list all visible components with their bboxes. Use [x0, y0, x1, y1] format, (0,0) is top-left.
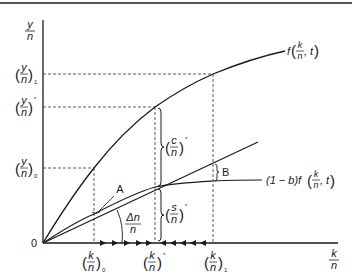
x-axis-label-num: k — [331, 247, 337, 259]
origin-label: 0 — [31, 237, 37, 249]
svg-text:n: n — [171, 213, 177, 225]
svg-text:): ) — [179, 206, 184, 223]
svg-text:n: n — [171, 146, 177, 158]
svg-text:n: n — [210, 261, 216, 273]
consumption-label: ( c n ) * — [165, 134, 188, 158]
svg-text:(: ( — [165, 206, 170, 223]
point-a-label: A — [116, 183, 124, 195]
svg-text:*: * — [185, 203, 188, 209]
svg-text:n: n — [130, 223, 136, 235]
gap-b-label: B — [222, 166, 229, 178]
svg-text:): ) — [28, 99, 33, 116]
svg-text:(: ( — [165, 139, 170, 156]
svg-text:(: ( — [291, 42, 296, 59]
savings-curve-label: (1 − b)f ( k n , t ) — [266, 169, 335, 190]
svg-text:(: ( — [15, 66, 20, 83]
saving-brace — [158, 189, 164, 241]
svg-text:): ) — [314, 42, 319, 59]
a-pointer — [98, 196, 114, 212]
svg-text:(: ( — [15, 99, 20, 116]
svg-text:Δn: Δn — [125, 211, 140, 223]
svg-text:, t: , t — [320, 174, 330, 186]
consumption-brace — [158, 108, 164, 186]
svg-text:(: ( — [307, 172, 312, 189]
svg-text:1: 1 — [34, 79, 38, 85]
svg-text:): ) — [218, 254, 223, 271]
y-tick-1: ( y n ) 1 — [15, 61, 38, 85]
svg-text:n: n — [21, 73, 27, 85]
svg-text:0: 0 — [102, 267, 106, 273]
x-tick-star: ( k n ) * — [143, 249, 166, 273]
svg-text:c: c — [171, 134, 177, 146]
solow-growth-diagram: y n 0 k n ( y n ) 1 ( y n ) * ( y n ) 0 … — [0, 0, 352, 280]
angle-arc — [117, 210, 122, 243]
svg-text:): ) — [179, 139, 184, 156]
svg-text:(: ( — [143, 254, 148, 271]
svg-text:n: n — [149, 261, 155, 273]
svg-text:k: k — [210, 249, 216, 261]
svg-text:k: k — [298, 40, 303, 50]
svg-text:(: ( — [82, 254, 87, 271]
svg-text:): ) — [96, 254, 101, 271]
svg-text:k: k — [314, 169, 319, 179]
svg-text:0: 0 — [34, 173, 38, 179]
svg-text:(: ( — [204, 254, 209, 271]
svg-text:n: n — [21, 167, 27, 179]
x-tick-1: ( k n ) 1 — [204, 249, 228, 273]
b-brace — [215, 164, 219, 181]
svg-text:): ) — [330, 172, 335, 189]
svg-text:1: 1 — [224, 267, 228, 273]
svg-text:*: * — [185, 136, 188, 142]
y-axis-label-den: n — [27, 30, 33, 42]
svg-text:n: n — [21, 106, 27, 118]
y-tick-0: ( y n ) 0 — [15, 155, 38, 179]
y-axis-label-num: y — [26, 18, 34, 30]
svg-text:k: k — [149, 249, 155, 261]
svg-text:(: ( — [15, 160, 20, 177]
savings-curve — [43, 180, 262, 243]
svg-text:): ) — [28, 160, 33, 177]
svg-text:, t: , t — [304, 45, 314, 57]
x-axis-label-den: n — [331, 259, 337, 271]
svg-text:n: n — [297, 51, 302, 61]
y-tick-star: ( y n ) * — [15, 94, 37, 118]
dilution-line-label: Δn n — [125, 211, 141, 235]
svg-text:(1 − b)f: (1 − b)f — [266, 174, 302, 186]
svg-text:k: k — [88, 249, 94, 261]
saving-label: ( s n ) * — [165, 201, 188, 225]
x-tick-0: ( k n ) 0 — [82, 249, 106, 273]
svg-text:*: * — [163, 252, 166, 258]
svg-text:n: n — [88, 261, 94, 273]
svg-text:): ) — [157, 254, 162, 271]
svg-text:*: * — [34, 96, 37, 102]
svg-text:): ) — [28, 66, 33, 83]
production-curve-label: f ( k n , t ) — [287, 40, 319, 61]
svg-text:s: s — [171, 201, 177, 213]
svg-text:n: n — [313, 180, 318, 190]
